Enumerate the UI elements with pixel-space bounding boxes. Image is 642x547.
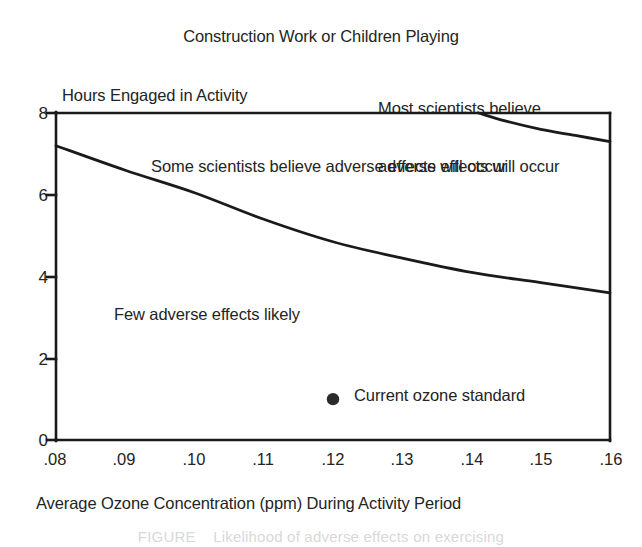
upper-threshold-curve <box>478 113 610 142</box>
caption-fragment: FIGURE Likelihood of adverse effects on … <box>0 528 642 547</box>
y-axis-ticks <box>47 113 56 440</box>
ozone-exposure-chart: Construction Work or Children Playing Mo… <box>0 0 642 547</box>
plot-area <box>0 0 642 547</box>
lower-threshold-curve <box>56 146 610 293</box>
current-ozone-standard-marker <box>327 393 339 405</box>
axis-frame <box>56 112 610 441</box>
